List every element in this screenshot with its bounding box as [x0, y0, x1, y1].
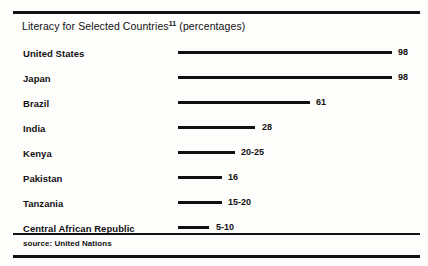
bar-mark: [178, 176, 222, 179]
table-row: Brazil 61: [0, 94, 428, 119]
bar-category-label: Tanzania: [23, 198, 63, 209]
chart-title: Literacy for Selected Countries11 (perce…: [22, 20, 245, 32]
bar-mark: [178, 126, 255, 129]
bottom-divider-rule: [13, 255, 420, 258]
bar-category-label: Japan: [23, 73, 51, 84]
source-note: source: United Nations: [23, 239, 112, 248]
bar-mark: [178, 101, 310, 104]
table-row: United States 98: [0, 44, 428, 69]
table-row: Kenya 20-25: [0, 144, 428, 169]
bar-value-label: 16: [228, 172, 238, 182]
table-row: Pakistan 16: [0, 169, 428, 194]
top-divider-rule: [13, 11, 420, 14]
bar-category-label: Pakistan: [23, 173, 62, 184]
bar-mark: [178, 76, 392, 79]
bar-mark: [178, 201, 222, 204]
bar-category-label: India: [23, 123, 45, 134]
bar-plot-area: United States 98 Japan 98 Brazil 61 Indi…: [0, 44, 428, 244]
bar-value-label: 98: [398, 72, 408, 82]
bar-mark: [178, 151, 235, 154]
chart-title-suffix: (percentages): [176, 20, 245, 32]
bar-category-label: Kenya: [23, 148, 52, 159]
bar-value-label: 61: [316, 97, 326, 107]
bar-value-label: 28: [262, 122, 272, 132]
bar-value-label: 98: [398, 47, 408, 57]
bar-value-label: 5-10: [216, 222, 234, 232]
bar-mark: [178, 51, 392, 54]
bar-mark: [178, 226, 209, 229]
table-row: Japan 98: [0, 69, 428, 94]
table-row: India 28: [0, 119, 428, 144]
bar-value-label: 20-25: [241, 147, 264, 157]
bar-value-label: 15-20: [228, 197, 251, 207]
literacy-chart-figure: Literacy for Selected Countries11 (perce…: [0, 0, 428, 266]
bar-category-label: Brazil: [23, 98, 49, 109]
bar-category-label: United States: [23, 48, 84, 59]
table-row: Tanzania 15-20: [0, 194, 428, 219]
source-divider-rule: [13, 233, 420, 235]
chart-title-text: Literacy for Selected Countries: [22, 20, 169, 32]
